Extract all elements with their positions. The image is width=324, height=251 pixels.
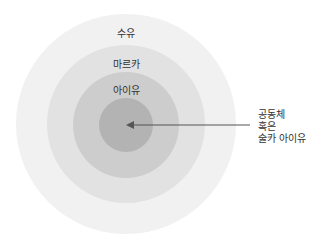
annotation-line-3: 술카 아이유 [258, 133, 306, 145]
annotation: 공동체 혹은 술카 아이유 [258, 109, 306, 145]
annotation-line-1: 공동체 [258, 109, 306, 121]
annotation-line-2: 혹은 [258, 121, 306, 133]
